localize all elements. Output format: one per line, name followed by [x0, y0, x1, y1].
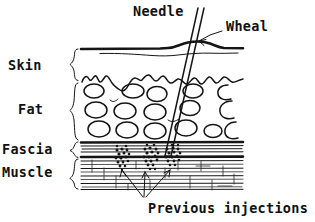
brace-fascia — [70, 142, 78, 158]
fat-cell — [114, 103, 136, 119]
anatomy-diagram: Skin Fat Fascia Muscle Needle Wheal Prev… — [0, 0, 315, 222]
skin-surface-line — [81, 42, 243, 49]
layer-label-fat: Fat — [18, 101, 43, 117]
fat-septum — [110, 99, 118, 102]
wheal-arrow-line — [199, 31, 222, 41]
skin-surface-group — [81, 42, 243, 56]
footnote-label-previous-injections: Previous injections — [148, 200, 308, 216]
fat-cell — [122, 84, 144, 98]
fat-cell — [85, 102, 107, 118]
layer-label-muscle: Muscle — [2, 164, 53, 180]
fat-cell — [88, 121, 110, 137]
fat-cell — [147, 87, 167, 102]
figure-canvas: Skin Fat Fascia Muscle Needle Wheal Prev… — [0, 0, 315, 222]
layer-braces-group — [70, 49, 78, 189]
fat-cell-partial — [218, 85, 231, 100]
fat-cell-partial — [220, 101, 234, 119]
fat-cells-group — [84, 84, 238, 139]
injection-clusters-group — [115, 144, 182, 172]
brace-skin — [70, 49, 78, 81]
fat-cell — [204, 125, 222, 138]
layer-label-fascia: Fascia — [2, 141, 53, 157]
fat-cell — [144, 123, 166, 139]
muscle-group — [81, 160, 243, 190]
fat-cell — [84, 84, 104, 98]
fascia-line-top — [81, 142, 243, 143]
brace-fat — [70, 83, 78, 140]
fat-cell — [144, 104, 166, 120]
callout-label-wheal: Wheal — [226, 18, 268, 34]
dermis-under-line — [100, 53, 238, 56]
fascia-group — [81, 142, 243, 157]
fat-cell-partial — [225, 122, 238, 139]
brace-muscle — [70, 159, 78, 189]
layer-label-skin: Skin — [8, 57, 42, 73]
fat-cell — [116, 122, 138, 138]
callout-label-needle: Needle — [133, 3, 184, 19]
injection-arrow-head — [142, 172, 149, 178]
